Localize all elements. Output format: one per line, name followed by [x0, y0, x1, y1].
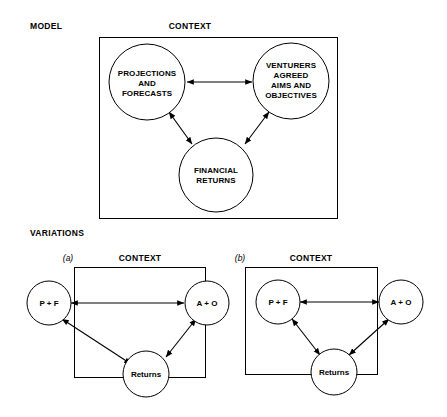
node-financial-returns-line-2: RETURNS: [196, 176, 236, 185]
variation-a-edge-ao-returns: [166, 319, 196, 357]
variation-a-context-label: CONTEXT: [119, 253, 162, 263]
variation-a-edge-pf-returns: [62, 319, 131, 364]
node-projections-line-1: PROJECTIONS: [118, 69, 177, 78]
model-context-label: CONTEXT: [169, 21, 212, 31]
variation-a-node-ao-label: A + O: [197, 299, 218, 308]
edge-projections-returns: [169, 112, 192, 144]
figure-page: MODEL CONTEXT PROJECTIONS AND FORECASTS …: [0, 0, 447, 417]
edge-venturers-returns: [245, 112, 269, 144]
variation-b-node-returns-label: Returns: [319, 368, 350, 377]
node-venturers-line-1: VENTURERS: [266, 61, 317, 70]
node-projections-line-2: AND: [138, 79, 156, 88]
variation-b-context-label: CONTEXT: [290, 253, 333, 263]
variation-a-tag: (a): [63, 253, 74, 263]
variation-b-node-ao-label: A + O: [391, 298, 412, 307]
variations-section-label: VARIATIONS: [30, 228, 84, 238]
variation-a-node-returns-label: Returns: [131, 370, 162, 379]
node-venturers-line-4: OBJECTIVES: [265, 91, 317, 100]
variation-b-tag: (b): [235, 253, 246, 263]
node-financial-returns: [179, 138, 253, 212]
node-financial-returns-line-1: FINANCIAL: [194, 166, 238, 175]
node-projections-line-3: FORECASTS: [122, 89, 173, 98]
model-section-label: MODEL: [30, 21, 62, 31]
variation-b-edge-ao-returns: [349, 319, 389, 355]
variation-b-node-pf-label: P + F: [268, 298, 287, 307]
node-venturers-line-3: AIMS AND: [271, 81, 311, 90]
node-venturers-line-2: AGREED: [274, 71, 309, 80]
variation-b-edge-pf-returns: [292, 319, 320, 355]
venture-model-diagram: MODEL CONTEXT PROJECTIONS AND FORECASTS …: [0, 0, 447, 417]
variation-a-node-pf-label: P + F: [39, 299, 58, 308]
